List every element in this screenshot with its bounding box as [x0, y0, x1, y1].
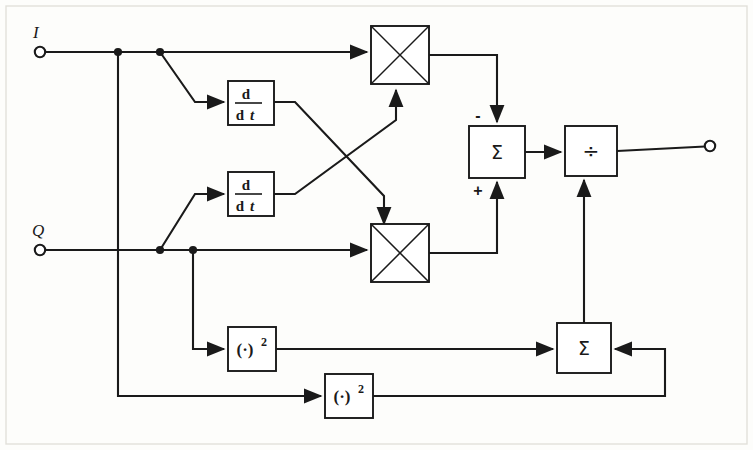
- multiplier-bottom[interactable]: [371, 224, 429, 282]
- derivative-numerator-i: d: [242, 86, 251, 102]
- square-block-q[interactable]: (·) 2: [228, 327, 276, 371]
- junction-dot-i-square: [114, 48, 122, 56]
- derivative-denominator-d-i: d: [236, 107, 245, 123]
- multiplier-top[interactable]: [371, 26, 429, 84]
- derivative-block-q[interactable]: d d t: [228, 172, 274, 216]
- input-label-q: Q: [32, 221, 44, 240]
- square-block-i-exponent: 2: [358, 382, 364, 396]
- summer-bottom[interactable]: Σ: [557, 323, 611, 373]
- wire-square-i-to-summer-bottom: [373, 349, 665, 396]
- summer-top-minus-sign: -: [475, 107, 480, 124]
- derivative-block-i[interactable]: d d t: [228, 81, 274, 125]
- square-block-q-base: (·): [237, 340, 254, 359]
- divider-block[interactable]: ÷: [565, 126, 617, 176]
- square-block-i-base: (·): [334, 387, 351, 406]
- wire-multiplier-top-to-summer-top: [429, 55, 497, 122]
- wire-i-to-derivative-i: [160, 52, 224, 102]
- square-block-q-exponent: 2: [261, 335, 267, 349]
- square-block-i[interactable]: (·) 2: [325, 374, 373, 418]
- block-diagram-svg: I Q d d t: [0, 0, 753, 450]
- wire-i-to-square-i: [118, 52, 321, 396]
- summer-top[interactable]: Σ: [469, 126, 525, 178]
- input-label-i: I: [32, 23, 40, 42]
- wire-divider-to-output: [617, 147, 705, 152]
- wire-multiplier-bottom-to-summer-top: [429, 182, 497, 253]
- wire-q-to-derivative-q: [160, 194, 224, 250]
- wire-derivative-i-to-multiplier-bottom: [274, 102, 384, 224]
- input-terminal-i[interactable]: [35, 47, 45, 57]
- summer-top-label: Σ: [491, 141, 503, 163]
- junction-dot-i-derivative: [156, 48, 164, 56]
- derivative-numerator-q: d: [242, 177, 251, 193]
- input-terminal-q[interactable]: [35, 245, 45, 255]
- wire-derivative-q-to-multiplier-top: [274, 90, 396, 194]
- junction-dot-q-derivative: [156, 246, 164, 254]
- figure-canvas: I Q d d t: [0, 0, 753, 450]
- junction-dot-q-square: [189, 246, 197, 254]
- wire-q-to-square-q: [193, 250, 224, 349]
- divider-label: ÷: [583, 139, 600, 163]
- derivative-denominator-d-q: d: [236, 198, 245, 214]
- output-terminal[interactable]: [705, 141, 715, 151]
- summer-bottom-label: Σ: [578, 337, 590, 359]
- summer-top-plus-sign: +: [473, 182, 482, 199]
